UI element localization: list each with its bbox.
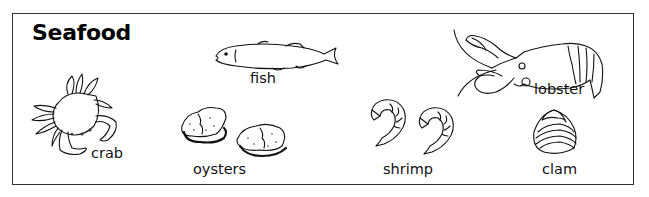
shrimp-label: shrimp <box>383 161 433 177</box>
page-title: Seafood <box>32 20 131 45</box>
clam-icon <box>530 108 580 156</box>
crab-label: crab <box>91 145 123 161</box>
fish-icon <box>212 38 347 78</box>
clam-label: clam <box>542 161 577 177</box>
shrimp-icon <box>368 98 462 154</box>
oysters-label: oysters <box>193 161 246 177</box>
lobster-label: lobster <box>534 81 584 97</box>
oysters-icon <box>176 104 306 160</box>
fish-label: fish <box>250 70 276 86</box>
